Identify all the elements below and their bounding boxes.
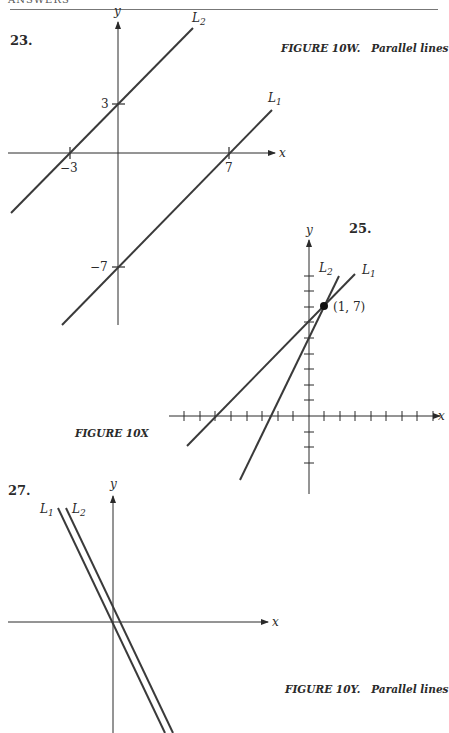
y-axis-label: y [113,4,121,18]
intersection-point [320,302,328,310]
line-l2-label: L2 [318,261,333,277]
line-l1-label: L1 [39,502,54,518]
line-l1-label: L1 [361,263,376,279]
tick-label-x-7: 7 [225,161,233,175]
line-l1 [58,508,165,733]
line-l2-label: L2 [71,502,86,518]
y-axis-label: y [305,223,313,237]
x-axis-label: x [272,615,279,629]
line-l2 [66,508,173,733]
intersection-label: (1, 7) [333,300,365,314]
figure-10y: x y L1 L2 [8,477,279,733]
tick-label-y-3: 3 [101,97,109,111]
tick-label-x-neg3: −3 [60,161,78,175]
line-l1 [187,274,355,446]
line-l1 [62,110,272,325]
line-l2 [11,28,193,213]
y-axis-label: y [109,477,117,491]
figure-10w: x y 3 −7 −3 7 L2 L1 [8,4,286,325]
x-axis-label: x [438,409,445,423]
x-axis-label: x [279,146,286,160]
figure-10x: x y [169,223,445,494]
line-l2-label: L2 [191,11,206,27]
line-l1-label: L1 [267,91,282,107]
tick-label-y-neg7: −7 [90,260,108,274]
